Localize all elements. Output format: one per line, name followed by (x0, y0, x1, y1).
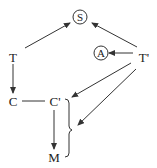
edge-t-to-s (25, 23, 70, 48)
node-a: A (94, 46, 108, 60)
node-s-label: S (77, 11, 83, 23)
node-c-label: C (9, 94, 18, 109)
diagram-canvas: S A T T' C C' M (0, 0, 157, 168)
node-cprime-label: C' (49, 94, 60, 109)
node-tprime-label: T' (139, 50, 149, 65)
node-m-label: M (48, 150, 60, 165)
edge-tprime-to-brace-top (72, 63, 131, 97)
node-a-label: A (97, 47, 105, 59)
node-t-label: T (9, 50, 17, 65)
edge-tprime-to-s (92, 23, 137, 47)
node-s: S (73, 10, 87, 24)
right-brace (65, 99, 72, 157)
